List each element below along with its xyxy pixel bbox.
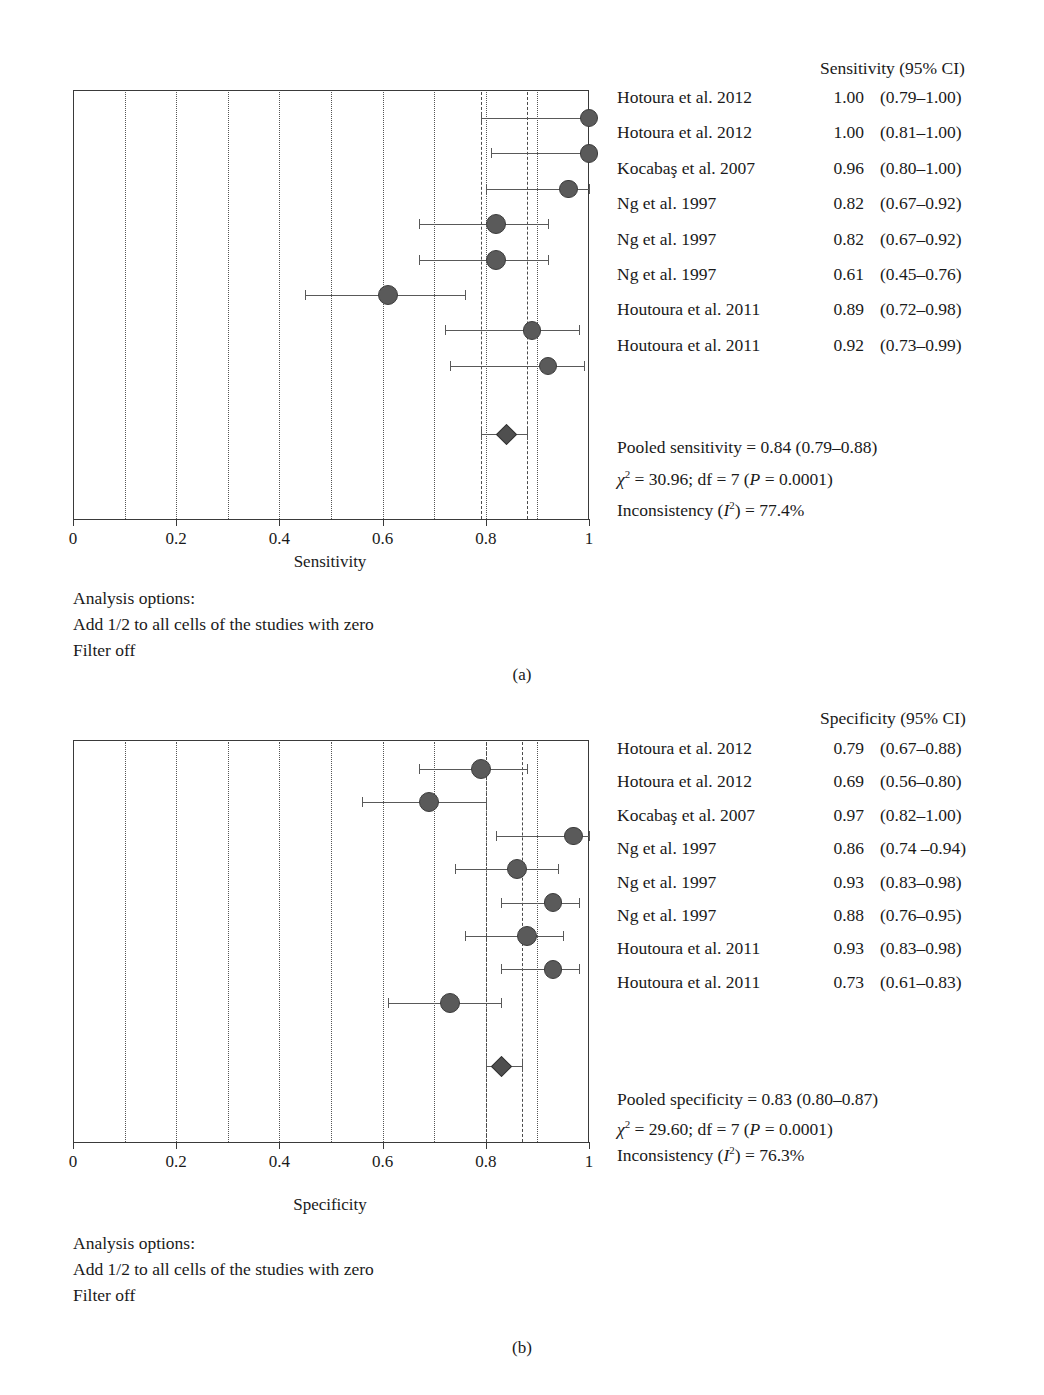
study-marker[interactable] — [378, 285, 398, 305]
ci-cap-left — [419, 255, 420, 265]
study-label: Houtoura et al. 2011 — [617, 938, 760, 959]
ci-cap-left — [501, 964, 502, 974]
x-axis-tick — [279, 519, 280, 526]
ci-cap-right — [579, 964, 580, 974]
x-axis-tick — [176, 519, 177, 526]
x-tick-label: 1 — [559, 1153, 619, 1170]
panel-b-column-header: Specificity (95% CI) — [820, 708, 966, 729]
ci-cap-right — [579, 898, 580, 908]
ci-cap-left — [388, 998, 389, 1008]
study-marker[interactable] — [539, 357, 557, 375]
study-marker[interactable] — [507, 859, 527, 879]
panel-a-analysis-options-title: Analysis options: — [73, 588, 195, 609]
ci-cap-left — [486, 184, 487, 194]
panel-b-caption: (b) — [0, 1338, 1044, 1358]
study-label: Ng et al. 1997 — [617, 193, 716, 214]
ci-cap-left — [445, 325, 446, 335]
study-marker[interactable] — [440, 993, 460, 1013]
study-label: Houtoura et al. 2011 — [617, 299, 760, 320]
pooled-cap-right — [527, 428, 528, 440]
incons-pre: Inconsistency ( — [617, 500, 723, 520]
study-label: Hotoura et al. 2012 — [617, 87, 752, 108]
study-estimate: 0.69 — [812, 771, 864, 792]
p-symbol: P — [750, 469, 761, 489]
study-marker[interactable] — [580, 109, 598, 127]
x-axis-line — [73, 1142, 589, 1143]
confidence-interval-line — [501, 903, 578, 904]
confidence-interval-line — [491, 153, 589, 154]
ci-cap-right — [589, 184, 590, 194]
study-marker[interactable] — [544, 960, 562, 978]
x-tick-label: 0.6 — [353, 530, 413, 547]
x-axis-tick — [73, 519, 74, 526]
study-estimate: 0.73 — [812, 972, 864, 993]
gridline — [176, 92, 177, 519]
x-axis-tick — [589, 1142, 590, 1149]
study-marker[interactable] — [471, 759, 491, 779]
study-estimate: 0.61 — [812, 264, 864, 285]
panel-a-inconsistency-line: Inconsistency (I2) = 77.4% — [617, 499, 804, 521]
ci-cap-left — [305, 290, 306, 300]
gridline — [176, 742, 177, 1142]
confidence-interval-line — [445, 330, 579, 331]
pooled-cap-left — [486, 1060, 487, 1072]
study-ci: (0.74 –0.94) — [880, 838, 966, 859]
ci-cap-right — [558, 864, 559, 874]
study-estimate: 0.96 — [812, 158, 864, 179]
x-tick-label: 0.6 — [353, 1153, 413, 1170]
study-label: Hotoura et al. 2012 — [617, 738, 752, 759]
ci-cap-left — [496, 831, 497, 841]
x-tick-label: 0.4 — [249, 530, 309, 547]
x-axis-tick — [383, 519, 384, 526]
chi-pre: = 30.96; df = 7 ( — [635, 469, 750, 489]
study-marker[interactable] — [486, 250, 506, 270]
study-marker[interactable] — [564, 827, 582, 845]
study-estimate: 0.93 — [812, 872, 864, 893]
ci-cap-right — [584, 361, 585, 371]
study-estimate: 0.88 — [812, 905, 864, 926]
x-axis-tick — [383, 1142, 384, 1149]
study-ci: (0.73–0.99) — [880, 335, 962, 356]
incons-pre: Inconsistency ( — [617, 1145, 723, 1165]
study-marker[interactable] — [559, 180, 577, 198]
chi-symbol: χ — [617, 469, 625, 489]
study-ci: (0.83–0.98) — [880, 872, 962, 893]
x-tick-label: 0.4 — [249, 1153, 309, 1170]
study-estimate: 0.97 — [812, 805, 864, 826]
study-estimate: 0.79 — [812, 738, 864, 759]
confidence-interval-line — [419, 260, 548, 261]
study-label: Hotoura et al. 2012 — [617, 122, 752, 143]
study-ci: (0.45–0.76) — [880, 264, 962, 285]
x-axis-tick — [73, 1142, 74, 1149]
confidence-interval-line — [501, 969, 578, 970]
panel-b-axis-title: Specificity — [220, 1195, 440, 1215]
study-marker[interactable] — [580, 144, 598, 162]
ci-cap-left — [465, 931, 466, 941]
study-estimate: 0.89 — [812, 299, 864, 320]
gridline — [434, 92, 435, 519]
incons-post: ) = 77.4% — [735, 500, 805, 520]
chi-post: = 0.0001) — [760, 469, 833, 489]
gridline — [228, 742, 229, 1142]
ci-cap-left — [419, 219, 420, 229]
study-marker[interactable] — [523, 321, 541, 339]
x-axis-tick — [486, 1142, 487, 1149]
gridline — [486, 92, 487, 519]
p-symbol: P — [750, 1119, 761, 1139]
panel-a-pooled-line: Pooled sensitivity = 0.84 (0.79–0.88) — [617, 437, 877, 458]
panel-b-analysis-options-line3: Filter off — [73, 1285, 135, 1306]
gridline — [331, 742, 332, 1142]
x-tick-label: 0.2 — [146, 530, 206, 547]
ci-cap-left — [362, 797, 363, 807]
panel-b-analysis-options-line2: Add 1/2 to all cells of the studies with… — [73, 1259, 374, 1280]
study-estimate: 0.93 — [812, 938, 864, 959]
study-marker[interactable] — [544, 893, 562, 911]
study-ci: (0.72–0.98) — [880, 299, 962, 320]
study-ci: (0.80–1.00) — [880, 158, 962, 179]
ci-cap-right — [527, 764, 528, 774]
study-ci: (0.81–1.00) — [880, 122, 962, 143]
study-label: Hotoura et al. 2012 — [617, 771, 752, 792]
pooled-ci-high-line — [527, 92, 528, 519]
study-estimate: 1.00 — [812, 122, 864, 143]
ci-cap-right — [563, 931, 564, 941]
